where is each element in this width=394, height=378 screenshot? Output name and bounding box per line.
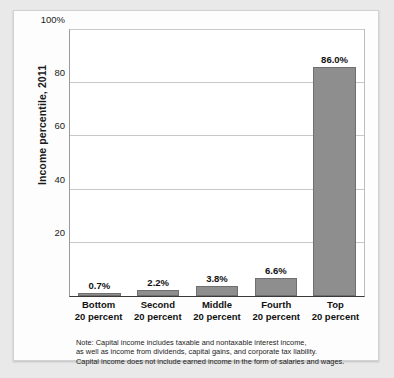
x-axis-category-label-line: Middle <box>187 299 246 311</box>
x-axis-category-label: Second20 percent <box>128 299 187 322</box>
y-axis-tick-label: 60 <box>54 120 65 131</box>
x-axis-category-label-line: 20 percent <box>306 311 365 323</box>
bar-value-label: 2.2% <box>129 277 188 288</box>
bar[interactable] <box>78 293 120 296</box>
bar-value-label: 3.8% <box>188 273 247 284</box>
x-axis-category-label-line: 20 percent <box>69 311 128 323</box>
bar-slot: 86.0% <box>305 30 364 296</box>
y-axis-tick-label: 20 <box>54 226 65 237</box>
bar-value-label: 86.0% <box>305 54 364 65</box>
bar[interactable] <box>255 278 297 296</box>
plot-area: 20406080100% 0.7%2.2%3.8%6.6%86.0% <box>69 29 365 297</box>
note-line-2: as well as income from dividends, capita… <box>76 347 372 356</box>
y-axis-tick-label: 80 <box>54 67 65 78</box>
x-axis-category-label-line: 20 percent <box>247 311 306 323</box>
bar-value-label: 6.6% <box>246 265 305 276</box>
x-axis-category-label-line: Fourth <box>247 299 306 311</box>
x-axis-category-label-line: 20 percent <box>187 311 246 323</box>
x-axis-category-label: Top20 percent <box>306 299 365 322</box>
y-axis-tick-label: 40 <box>54 173 65 184</box>
y-axis-title: Income percentile, 2011 <box>36 25 48 225</box>
figure-card: Income percentile, 2011 20406080100% 0.7… <box>13 10 379 361</box>
bar-series: 0.7%2.2%3.8%6.6%86.0% <box>70 30 364 296</box>
bar[interactable] <box>137 290 179 296</box>
y-axis-tick-label: 100% <box>41 14 65 25</box>
x-axis-category-label-line: Top <box>306 299 365 311</box>
note-line-1: Note: Capital income includes taxable an… <box>76 338 372 347</box>
bar-slot: 6.6% <box>246 30 305 296</box>
chart-note: Note: Capital income includes taxable an… <box>76 338 372 366</box>
x-axis-category-label-line: 20 percent <box>128 311 187 323</box>
bar-slot: 3.8% <box>188 30 247 296</box>
bar-slot: 2.2% <box>129 30 188 296</box>
x-axis-category-labels: Bottom20 percentSecond20 percentMiddle20… <box>69 299 365 331</box>
x-axis-category-label: Bottom20 percent <box>69 299 128 322</box>
bar-slot: 0.7% <box>70 30 129 296</box>
bar-value-label: 0.7% <box>70 280 129 291</box>
x-axis-category-label: Fourth20 percent <box>247 299 306 322</box>
x-axis-category-label: Middle20 percent <box>187 299 246 322</box>
x-axis-category-label-line: Second <box>128 299 187 311</box>
bar[interactable] <box>196 286 238 296</box>
x-axis-category-label-line: Bottom <box>69 299 128 311</box>
note-line-3: Capital income does not include earned i… <box>76 357 372 366</box>
bar[interactable] <box>313 67 355 296</box>
